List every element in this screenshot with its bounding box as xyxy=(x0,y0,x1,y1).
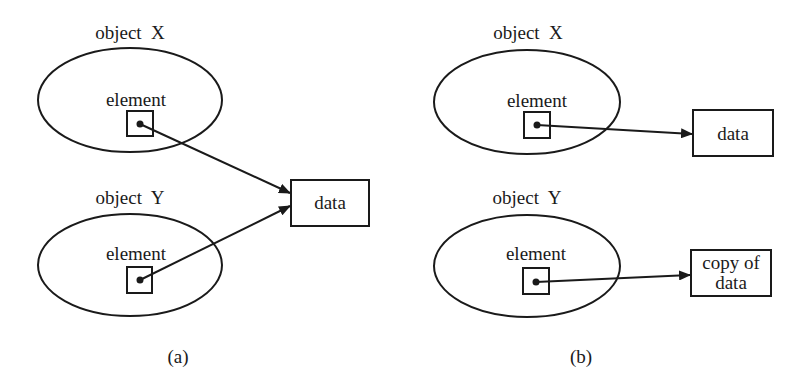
diagram-canvas: object X element data object Y element (… xyxy=(0,0,810,388)
element-label: element xyxy=(506,243,567,264)
panel-a: object X element data object Y element (… xyxy=(38,22,369,368)
copy-label-line1: copy of xyxy=(702,252,760,273)
object-y-label: object Y xyxy=(493,187,562,208)
object-x-label: object X xyxy=(95,22,165,43)
copy-arrow-y xyxy=(536,275,690,282)
object-y-ellipse xyxy=(38,214,222,316)
object-y-ellipse xyxy=(434,215,620,317)
panel-b: object X element data object Y element c… xyxy=(434,22,773,368)
data-label: data xyxy=(717,123,749,144)
caption-b: (b) xyxy=(570,346,592,368)
object-x-label: object X xyxy=(493,22,563,43)
copy-label-line2: data xyxy=(715,272,747,293)
object-y-label: object Y xyxy=(96,187,165,208)
element-label: element xyxy=(106,243,167,264)
element-label: element xyxy=(507,90,568,111)
reference-arrow-x xyxy=(140,124,290,193)
data-label: data xyxy=(314,192,346,213)
element-label: element xyxy=(106,89,167,110)
caption-a: (a) xyxy=(167,346,188,368)
reference-arrow-x xyxy=(537,125,692,134)
